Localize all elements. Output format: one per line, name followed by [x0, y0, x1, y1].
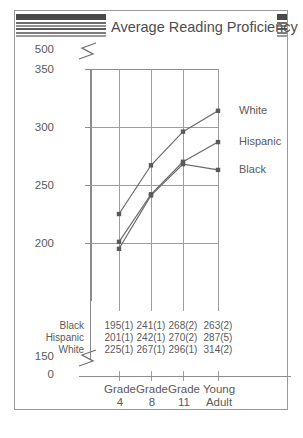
figure-panel: Average Reading Proficiency 500 350 300 … — [14, 10, 288, 410]
data-point-white-young-adult — [216, 109, 220, 113]
table-cell-white-young-adult: 314(2) — [196, 345, 240, 355]
data-point-hispanic-grade-11 — [181, 160, 185, 164]
data-point-white-grade-11 — [181, 129, 185, 133]
data-point-white-grade-4 — [117, 212, 121, 216]
data-point-black-grade-4 — [117, 247, 121, 251]
data-point-hispanic-grade-8 — [149, 192, 153, 196]
table-row-label-white: White — [29, 345, 84, 355]
table-row-label-black: Black — [29, 321, 84, 331]
table-cell-hispanic-young-adult: 287(5) — [196, 333, 240, 343]
data-point-hispanic-grade-4 — [117, 240, 121, 244]
series-label-black: Black — [239, 164, 266, 175]
data-point-white-grade-8 — [149, 163, 153, 167]
data-point-hispanic-young-adult — [216, 140, 220, 144]
series-label-hispanic: Hispanic — [239, 136, 281, 147]
table-cell-black-young-adult: 263(2) — [196, 321, 240, 331]
table-row-label-hispanic: Hispanic — [29, 333, 84, 343]
data-point-black-young-adult — [216, 168, 220, 172]
series-label-white: White — [239, 105, 267, 116]
series-line-white — [119, 111, 218, 214]
